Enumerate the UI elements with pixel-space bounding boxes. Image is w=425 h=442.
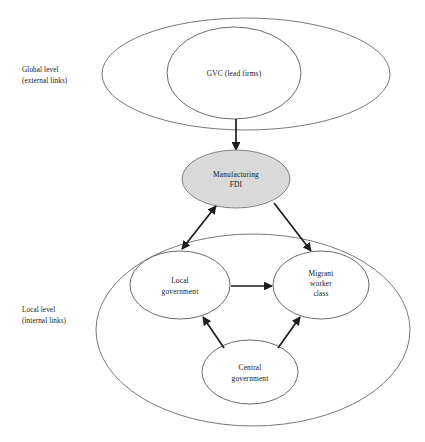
local-level-label: Local level (internal links)	[22, 306, 67, 325]
node-gvc[interactable]: GVC (lead firms)	[167, 27, 301, 119]
migrant-worker-class-label-line2: worker	[310, 279, 332, 288]
node-central-government[interactable]: Central government	[202, 340, 298, 404]
central-government-label-line1: Central	[239, 363, 262, 372]
local-government-ellipse[interactable]	[130, 251, 230, 319]
migrant-worker-class-label-line3: class	[313, 289, 328, 298]
node-manufacturing-fdi[interactable]: Manufacturing FDI	[182, 150, 290, 208]
node-migrant-worker-class[interactable]: Migrant worker class	[273, 251, 369, 319]
local-government-label-line1: Local	[171, 276, 189, 285]
global-level-group: GVC (lead firms)	[102, 18, 390, 130]
local-level-label-line1: Local level	[22, 306, 55, 314]
manufacturing-fdi-label-line2: FDI	[230, 180, 243, 189]
central-government-label-line2: government	[232, 374, 270, 383]
central-government-ellipse[interactable]	[202, 340, 298, 404]
node-local-government[interactable]: Local government	[130, 251, 230, 319]
gvc-label: GVC (lead firms)	[207, 69, 262, 78]
diagram-canvas: GVC (lead firms) Global level (external …	[0, 0, 425, 442]
manufacturing-fdi-label-line1: Manufacturing	[213, 170, 259, 179]
global-level-label-line1: Global level	[22, 66, 59, 74]
migrant-worker-class-label-line1: Migrant	[309, 269, 335, 278]
local-government-label-line2: government	[162, 287, 200, 296]
local-level-label-line2: (internal links)	[22, 317, 67, 325]
gvc-fdi-diagram: GVC (lead firms) Global level (external …	[0, 0, 425, 442]
global-level-label-line2: (external links)	[22, 77, 68, 85]
global-level-label: Global level (external links)	[22, 66, 68, 85]
manufacturing-fdi-ellipse[interactable]	[182, 150, 290, 208]
